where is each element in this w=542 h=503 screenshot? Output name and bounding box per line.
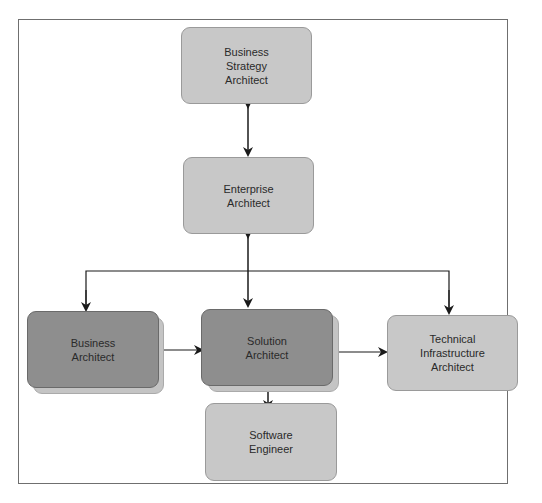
node-label: Enterprise Architect [223, 182, 273, 210]
node-software-engineer[interactable]: Software Engineer [205, 403, 337, 481]
node-label: Software Engineer [249, 428, 293, 456]
node-label: Solution Architect [246, 334, 289, 362]
node-label: Business Strategy Architect [224, 45, 269, 87]
node-solution-architect[interactable]: Solution Architect [201, 309, 333, 386]
node-label: Business Architect [71, 336, 116, 364]
node-enterprise-architect[interactable]: Enterprise Architect [183, 157, 314, 234]
bus-line [86, 271, 449, 313]
node-business-strategy-architect[interactable]: Business Strategy Architect [181, 27, 312, 104]
node-label: Technical Infrastructure Architect [420, 332, 485, 374]
node-technical-infrastructure-architect[interactable]: Technical Infrastructure Architect [387, 315, 518, 391]
node-business-architect[interactable]: Business Architect [27, 311, 159, 388]
